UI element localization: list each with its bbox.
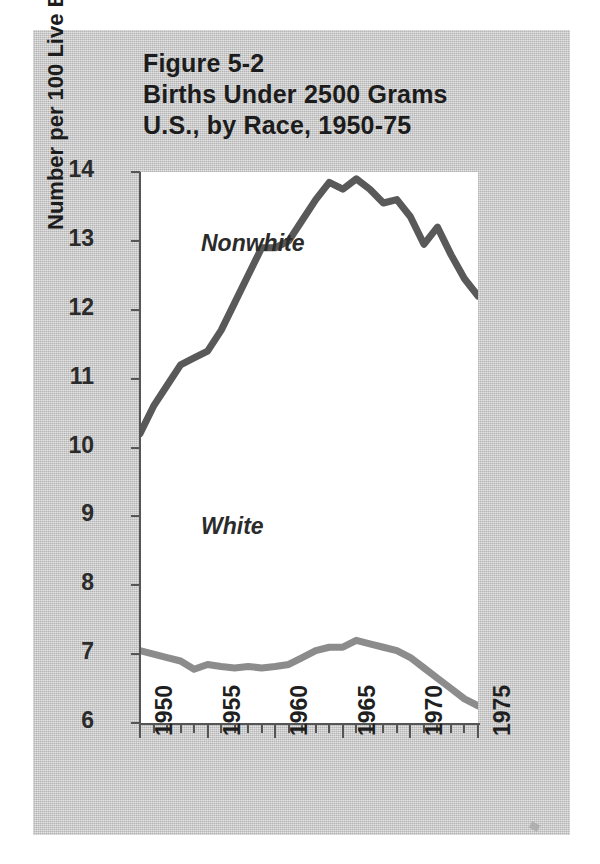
series-label-white: White xyxy=(201,513,264,540)
x-tick-minor xyxy=(396,725,398,733)
plot-area xyxy=(140,172,478,723)
y-tick xyxy=(131,447,140,449)
series-label-nonwhite: Nonwhite xyxy=(201,230,305,257)
figure-title: Figure 5-2 Births Under 2500 Grams U.S.,… xyxy=(143,48,563,141)
y-tick-label: 7 xyxy=(54,638,94,665)
x-tick-minor xyxy=(180,725,182,733)
x-tick-minor xyxy=(315,725,317,733)
x-tick-major xyxy=(139,725,141,738)
x-tick-label: 1960 xyxy=(286,685,313,736)
y-tick xyxy=(131,240,140,242)
y-tick-label: 12 xyxy=(54,294,94,321)
y-tick xyxy=(131,722,140,724)
x-tick-minor xyxy=(328,725,330,733)
chart-lines xyxy=(140,172,478,723)
x-tick-major xyxy=(274,725,276,738)
y-tick-label: 11 xyxy=(54,363,94,390)
series-line-nonwhite xyxy=(140,179,478,434)
x-tick-label: 1975 xyxy=(489,685,516,736)
x-tick-major xyxy=(409,725,411,738)
figure-panel: Figure 5-2 Births Under 2500 Grams U.S.,… xyxy=(33,30,570,835)
x-tick-minor xyxy=(193,725,195,733)
y-tick xyxy=(131,653,140,655)
figure-title-line-3: U.S., by Race, 1950-75 xyxy=(143,110,563,141)
x-tick-minor xyxy=(450,725,452,733)
y-tick-label: 8 xyxy=(54,569,94,596)
y-tick-label: 9 xyxy=(54,500,94,527)
figure-title-line-2: Births Under 2500 Grams xyxy=(143,79,563,110)
y-tick xyxy=(131,515,140,517)
x-tick-minor xyxy=(382,725,384,733)
y-tick xyxy=(131,171,140,173)
x-tick-label: 1950 xyxy=(151,685,178,736)
paper-speck xyxy=(529,821,540,831)
x-tick-label: 1970 xyxy=(421,685,448,736)
y-tick-label: 13 xyxy=(54,225,94,252)
x-tick-major xyxy=(477,725,479,738)
figure-title-line-1: Figure 5-2 xyxy=(143,48,563,79)
y-tick-label: 10 xyxy=(54,432,94,459)
y-tick-label: 6 xyxy=(54,707,94,734)
x-tick-minor xyxy=(261,725,263,733)
y-tick xyxy=(131,584,140,586)
x-tick-minor xyxy=(463,725,465,733)
y-tick xyxy=(131,309,140,311)
y-axis-line xyxy=(139,172,141,725)
x-tick-label: 1955 xyxy=(219,685,246,736)
x-tick-major xyxy=(342,725,344,738)
x-tick-label: 1965 xyxy=(354,685,381,736)
y-tick xyxy=(131,378,140,380)
y-axis-title: Number per 100 Live Births xyxy=(43,0,69,230)
y-tick-label: 14 xyxy=(54,156,94,183)
x-tick-major xyxy=(207,725,209,738)
x-tick-minor xyxy=(247,725,249,733)
